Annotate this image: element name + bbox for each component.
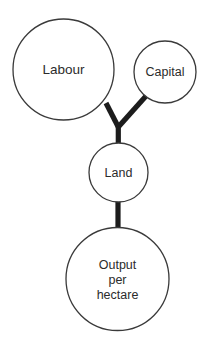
node-land[interactable]: Land (89, 143, 148, 202)
node-output-per-hectare[interactable]: Output per hectare (66, 228, 169, 331)
output-label-line-1: Output (99, 258, 137, 272)
capital-label: Capital (146, 65, 185, 79)
output-label-line-3: hectare (97, 288, 139, 302)
connector-capital-to-junction (118, 96, 146, 127)
factor-flow-diagram: Labour Capital Land Output per hectare (0, 0, 205, 350)
node-capital[interactable]: Capital (134, 41, 196, 103)
connector-labour-to-junction (106, 103, 118, 127)
diagram-canvas: Labour Capital Land Output per hectare (0, 0, 205, 350)
node-labour[interactable]: Labour (13, 19, 114, 120)
output-label-line-2: per (108, 273, 126, 287)
land-label: Land (105, 166, 133, 180)
labour-label: Labour (42, 62, 85, 77)
